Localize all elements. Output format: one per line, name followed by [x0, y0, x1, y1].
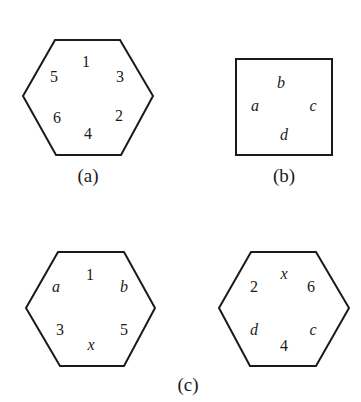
hex-c-left-label-upper-right: b	[120, 278, 128, 295]
figure-b: b a c d (b)	[236, 59, 332, 187]
hex-c-right-label-lower-left: d	[250, 321, 259, 338]
square-b-label-left: a	[251, 97, 259, 114]
hex-a-label-lower-right: 2	[115, 107, 123, 124]
hex-c-left-label-lower-left: 3	[56, 321, 64, 338]
hex-a-label-top: 1	[82, 53, 90, 70]
caption-b: (b)	[273, 165, 295, 187]
caption-a: (a)	[77, 165, 98, 187]
hex-c-right-label-upper-right: 6	[307, 278, 315, 295]
hex-a-label-bottom: 4	[84, 125, 92, 142]
hex-a-label-upper-left: 5	[50, 68, 58, 85]
figure-a: 1 5 3 6 2 4 (a)	[23, 40, 153, 187]
hex-c-right-label-top: x	[279, 265, 287, 282]
hex-c-left-label-bottom: x	[86, 336, 94, 353]
hex-c-left-label-top: 1	[86, 266, 94, 283]
square-b-label-top: b	[277, 74, 285, 91]
hex-c-right-label-upper-left: 2	[250, 278, 258, 295]
hex-c-right-label-bottom: 4	[280, 337, 288, 354]
square-b-label-bottom: d	[280, 126, 289, 143]
hex-c-right-label-lower-right: c	[309, 321, 316, 338]
hex-a-label-upper-right: 3	[116, 68, 124, 85]
square-b-label-right: c	[309, 97, 316, 114]
diagram-canvas: 1 5 3 6 2 4 (a) b a c d (b) 1 a b 3 5 x …	[0, 0, 361, 402]
hex-c-left-label-upper-left: a	[52, 278, 60, 295]
hex-c-left-label-lower-right: 5	[120, 321, 128, 338]
figure-c-right: x 2 6 d c 4	[219, 252, 349, 366]
hex-a-label-lower-left: 6	[53, 109, 61, 126]
figure-c-left: 1 a b 3 5 x	[26, 252, 155, 366]
caption-c: (c)	[177, 374, 198, 396]
